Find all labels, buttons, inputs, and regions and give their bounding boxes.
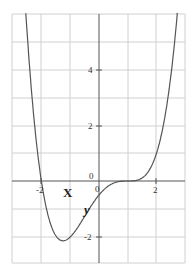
origin-label-upper: 0	[89, 171, 94, 181]
y-tick-label-4: 4	[88, 65, 93, 75]
x-tick-label-2: 2	[153, 185, 158, 195]
function-curve	[26, 13, 178, 241]
y-tick-label-2: 2	[88, 121, 93, 131]
x-axis-label: X	[63, 185, 73, 200]
y-axis-label: y	[82, 202, 90, 217]
function-plot: -2 2 4 2 -2 0 0 X y	[0, 0, 190, 268]
x-tick-label-neg2: -2	[36, 185, 44, 195]
y-tick-label-neg2: -2	[84, 232, 92, 242]
origin-label-lower: 0	[95, 184, 100, 194]
